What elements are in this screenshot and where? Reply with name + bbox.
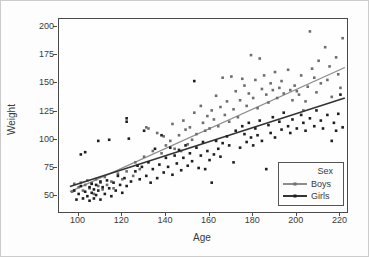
x-axis-label: Age [58,232,346,243]
boys-line-sample-icon [283,183,307,185]
boys-data-point [208,127,211,130]
boys-data-point [320,82,323,85]
girls-data-point [108,187,111,190]
boys-data-point [326,79,329,82]
girls-data-point [202,141,205,144]
figure: Weight Sex Boys Girls 100120140160180200… [0,0,369,257]
legend-item-girls: Girls [283,190,339,202]
girls-data-point [215,140,218,143]
girls-data-point [162,171,165,174]
girls-data-point [101,186,104,189]
boys-data-point [252,97,255,100]
girls-data-point [125,185,128,188]
girls-data-point [191,160,194,163]
girls-line-sample-icon [283,195,307,197]
girls-data-point [261,140,264,143]
girls-data-point [289,132,292,135]
boys-data-point [287,68,290,71]
girls-data-point [267,124,270,127]
boys-data-point [206,115,209,118]
boys-data-point [278,87,281,90]
girls-data-point [138,178,141,181]
y-tick-label: 175 [28,49,54,59]
girls-data-point [250,136,253,139]
boys-data-point [289,89,292,92]
girls-data-point [152,168,155,171]
girls-data-point [269,132,272,135]
girls-data-point [128,137,131,140]
boys-data-point [101,188,104,191]
boys-data-point [165,144,168,147]
girls-data-point [125,117,128,120]
boys-data-point [317,59,320,62]
girls-data-point [339,93,342,96]
girls-data-point [171,173,174,176]
girls-data-point [75,198,78,201]
boys-data-point [241,78,244,81]
boys-data-point [228,120,231,123]
girls-data-point [80,153,83,156]
girls-data-point [241,125,244,128]
boys-data-point [193,111,196,114]
girls-data-point [256,134,259,137]
boys-data-point [169,140,172,143]
girls-data-point [147,161,150,164]
boys-data-point [230,75,233,78]
boys-data-point [182,119,185,122]
girls-data-point [82,197,85,200]
boys-data-point [125,170,128,173]
girls-data-point [84,190,87,193]
girls-data-point [335,129,338,132]
girls-data-point [80,185,83,188]
y-tick-label: 150 [28,77,54,87]
x-tick-label: 220 [322,215,356,225]
girls-data-point [88,199,91,202]
boys-data-point [106,184,109,187]
legend-item-boys: Boys [283,178,339,190]
boys-data-point [315,91,318,94]
boys-data-point [328,65,331,68]
girls-data-point [221,142,224,145]
girls-data-point [228,144,231,147]
boys-data-point [263,74,266,77]
y-tick-label: 50 [28,190,54,200]
boys-data-point [160,152,163,155]
girls-data-point [200,154,203,157]
girls-data-point [291,118,294,121]
girls-data-point [97,189,100,192]
x-tick-label: 100 [61,215,95,225]
girls-data-point [258,119,261,122]
boys-data-point [200,105,203,108]
girls-data-point [149,181,152,184]
boys-data-point [256,107,259,110]
girls-data-point [274,136,277,139]
girls-data-point [337,113,340,116]
girls-data-point [278,120,281,123]
boys-data-point [132,175,135,178]
boys-data-point [250,54,253,57]
boys-data-point [243,84,246,87]
legend-title: Sex [283,165,339,177]
boys-data-point [293,84,296,87]
boys-data-point [341,37,344,40]
girls-data-point [186,164,189,167]
girls-data-point [145,175,148,178]
x-tick-label: 200 [279,215,313,225]
y-tick-label: 100 [28,134,54,144]
boys-data-point [265,93,268,96]
boys-data-point [237,116,240,119]
girls-data-point [254,127,257,130]
boys-data-point [217,125,220,128]
girls-data-point [110,195,113,198]
y-tick-label: 125 [28,106,54,116]
plot-area: Sex Boys Girls [58,18,348,213]
y-axis-label: Weight [6,90,17,150]
boys-data-point [272,89,275,92]
boys-data-point [261,88,264,91]
girls-data-point [206,150,209,153]
boys-data-point [313,76,316,79]
girls-data-point [93,197,96,200]
boys-data-point [189,126,192,129]
boys-data-point [117,172,120,175]
boys-data-point [269,82,272,85]
